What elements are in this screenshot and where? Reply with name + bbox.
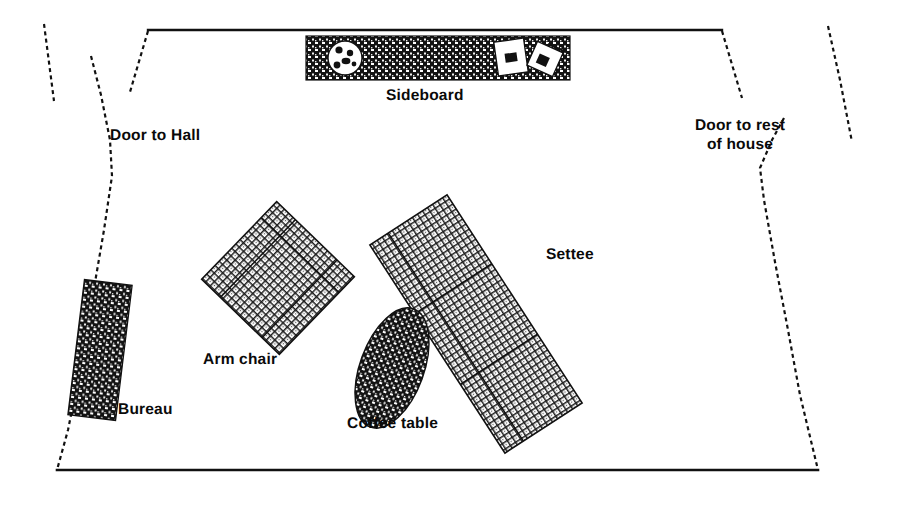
label-door-to-hall: Door to Hall bbox=[110, 126, 200, 145]
wall-right-top-jamb bbox=[722, 31, 742, 98]
arm-chair-body bbox=[202, 202, 355, 355]
floor-plan-diagram: Sideboard Door to Hall Door to rest of h… bbox=[0, 0, 901, 511]
wall-right-doorway-outer bbox=[828, 26, 852, 142]
floor-plan-canvas bbox=[0, 0, 901, 511]
label-coffee-table: Coffee table bbox=[347, 414, 438, 433]
label-bureau: Bureau bbox=[118, 400, 173, 419]
furniture-sideboard[interactable] bbox=[306, 36, 570, 80]
wall-right-run bbox=[760, 118, 818, 470]
sideboard-picture-frame-icon bbox=[494, 38, 528, 76]
furniture-arm-chair[interactable] bbox=[202, 202, 355, 355]
label-sideboard: Sideboard bbox=[386, 86, 464, 105]
label-settee: Settee bbox=[546, 245, 594, 264]
wall-left-top-jamb bbox=[130, 31, 148, 92]
label-arm-chair: Arm chair bbox=[203, 350, 277, 369]
sideboard-tray-icon bbox=[328, 41, 362, 75]
label-door-to-rest-of-house: Door to rest of house bbox=[660, 116, 820, 155]
wall-left-doorway-outer bbox=[44, 24, 54, 101]
